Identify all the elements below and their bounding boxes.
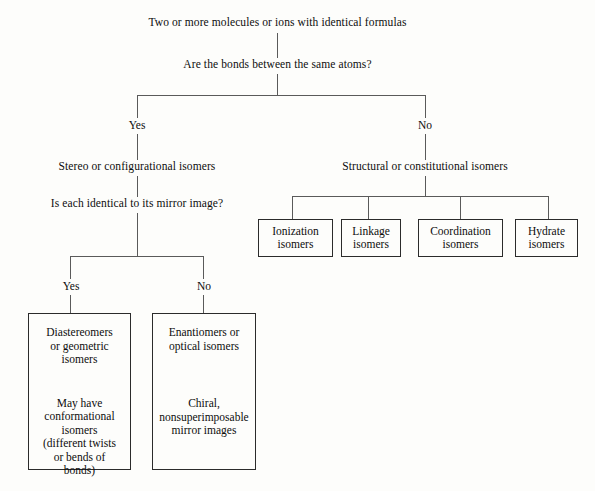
box-ionization-isomers-label: Ionization isomers [272,225,319,252]
box-hydrate-isomers-label: Hydrate isomers [528,225,565,252]
branch-label-no-level1: No [400,119,450,132]
connector-split-bar-level1 [137,95,426,96]
connector-split-bar-structural [292,196,549,197]
connector-stereo-to-question2 [137,176,138,197]
connector-drop-linkage [368,196,369,219]
box-diastereomers-secondary: May have conformational isomers (differe… [43,397,116,478]
box-hydrate-isomers: Hydrate isomers [515,219,578,257]
question-1-label: Are the bonds between the same atoms? [0,58,555,71]
connector-structural-stem [425,176,426,196]
connector-root-to-question1 [277,33,278,58]
box-diastereomers-primary: Diastereomers or geometric isomers [46,326,112,367]
connector-split-bar-level2 [70,256,204,257]
connector-drop-coordination [460,196,461,219]
connector-drop-ionization [292,196,293,219]
connector-drop-no-level2 [203,256,204,279]
connector-yes-to-stereo [137,134,138,160]
box-enantiomers-primary: Enantiomers or optical isomers [169,326,240,353]
isomer-flowchart: Two or more molecules or ions with ident… [0,0,595,491]
branch-label-no-level2: No [179,280,229,293]
structural-isomers-label: Structural or constitutional isomers [325,160,525,173]
box-ionization-isomers: Ionization isomers [258,219,333,257]
connector-no-to-structural [425,134,426,160]
connector-question2-stem [137,213,138,256]
box-coordination-isomers: Coordination isomers [418,219,503,257]
connector-no2-to-enantiomers [203,295,204,313]
box-enantiomers: Enantiomers or optical isomers Chiral, n… [152,313,256,470]
connector-question1-stem [277,74,278,96]
connector-drop-no-level1 [425,95,426,118]
connector-drop-yes-level1 [137,95,138,118]
box-linkage-isomers: Linkage isomers [341,219,401,257]
stereo-isomers-label: Stereo or configurational isomers [37,160,237,173]
connector-drop-hydrate [548,196,549,219]
connector-drop-yes-level2 [70,256,71,279]
box-diastereomers: Diastereomers or geometric isomers May h… [28,313,131,470]
connector-yes2-to-diastereomers [70,295,71,313]
box-coordination-isomers-label: Coordination isomers [430,225,491,252]
question-2-label: Is each identical to its mirror image? [37,197,237,210]
root-node-label: Two or more molecules or ions with ident… [0,16,555,29]
box-enantiomers-secondary: Chiral, nonsuperimposable mirror images [159,397,248,438]
branch-label-yes-level1: Yes [112,119,162,132]
box-linkage-isomers-label: Linkage isomers [352,225,390,252]
branch-label-yes-level2: Yes [46,280,96,293]
